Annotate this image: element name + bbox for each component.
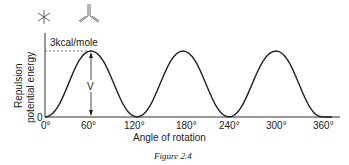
x-tick-180: 180° [176, 120, 197, 131]
x-tick-240: 240° [219, 120, 240, 131]
arrow-head-up [89, 52, 93, 58]
x-tick-60: 60° [81, 120, 96, 131]
staggered-newman-icon [38, 10, 50, 24]
x-axis-label: Angle of rotation [133, 132, 206, 143]
x-tick-300: 300° [266, 120, 287, 131]
energy-annotation: 3kcal/mole [50, 37, 98, 48]
x-tick-0: 0° [41, 120, 51, 131]
arrow-head-down [89, 110, 93, 116]
y-axis-label-line2: potential energy [25, 52, 36, 123]
y-axis-label-line1: Repulsion [13, 64, 24, 108]
x-tick-120: 120° [124, 120, 145, 131]
figure: V 3kcal/mole 0 Repulsion potential energ… [0, 0, 349, 165]
x-tick-360: 360° [313, 120, 334, 131]
figure-caption: Figure 2.4 [153, 151, 192, 161]
eclipsed-newman-icon [79, 4, 99, 22]
barrier-label: V [87, 81, 94, 92]
